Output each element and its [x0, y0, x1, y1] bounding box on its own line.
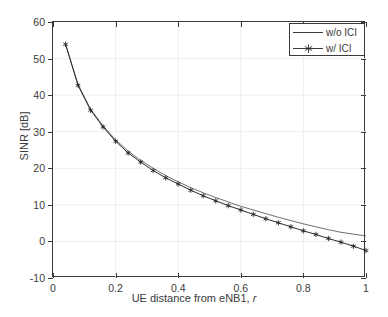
series-w-ici — [63, 42, 368, 254]
series-markers — [63, 42, 368, 254]
y-tick-label: 20 — [5, 163, 45, 173]
x-tick-mark — [116, 273, 117, 278]
x-tick-mark — [178, 273, 179, 278]
gridlines — [53, 22, 366, 278]
y-tick-mark-right — [361, 168, 366, 169]
y-tick-mark-right — [361, 205, 366, 206]
x-axis-title: UE distance from eNB1, r — [0, 292, 388, 304]
series-line — [66, 44, 366, 250]
x-tick-mark-top — [241, 22, 242, 27]
y-tick-label: 30 — [5, 127, 45, 137]
y-tick-mark — [48, 95, 53, 96]
y-tick-mark-right — [361, 95, 366, 96]
x-tick-mark — [303, 273, 304, 278]
figure-canvas: SINR [dB] UE distance from eNB1, r -1001… — [0, 0, 388, 317]
y-tick-mark — [48, 278, 53, 279]
y-tick-mark — [48, 205, 53, 206]
legend-label-wo-ici: w/o ICI — [326, 26, 363, 39]
x-axis-title-variable: r — [253, 292, 257, 304]
x-tick-mark-top — [53, 22, 54, 27]
y-tick-mark-right — [361, 278, 366, 279]
legend-item-1[interactable]: w/ ICI — [290, 41, 364, 56]
x-tick-label: 0.4 — [156, 283, 200, 293]
x-tick-mark — [53, 273, 54, 278]
series-w-o-ici — [66, 44, 366, 236]
x-tick-mark — [366, 273, 367, 278]
y-tick-label: -10 — [5, 273, 45, 283]
y-tick-label: 0 — [5, 236, 45, 246]
y-tick-mark-right — [361, 132, 366, 133]
y-tick-label: 60 — [5, 17, 45, 27]
legend-item-0[interactable]: w/o ICI — [290, 25, 364, 40]
y-tick-mark — [48, 132, 53, 133]
x-tick-label: 1 — [344, 283, 388, 293]
series-line — [66, 44, 366, 236]
plot-area: -10010203040506000.20.40.60.81 w/o ICI w… — [52, 21, 365, 277]
x-tick-label: 0.2 — [94, 283, 138, 293]
x-tick-mark — [241, 273, 242, 278]
data-series-layer — [63, 42, 368, 254]
y-tick-mark — [48, 59, 53, 60]
x-tick-label: 0.6 — [219, 283, 263, 293]
plot-svg — [53, 22, 366, 278]
y-tick-mark — [48, 168, 53, 169]
legend[interactable]: w/o ICI w/ ICI — [289, 23, 365, 56]
y-tick-label: 10 — [5, 200, 45, 210]
y-tick-label: 40 — [5, 90, 45, 100]
legend-line-sample-wo-ici — [293, 32, 323, 33]
x-tick-label: 0 — [31, 283, 75, 293]
asterisk-marker-icon — [304, 43, 313, 54]
y-tick-mark-right — [361, 59, 366, 60]
legend-label-w-ici: w/ ICI — [326, 42, 363, 55]
y-tick-mark-right — [361, 241, 366, 242]
x-axis-title-text: UE distance from eNB1, — [132, 292, 250, 304]
y-tick-label: 50 — [5, 54, 45, 64]
x-tick-label: 0.8 — [281, 283, 325, 293]
x-tick-mark-top — [366, 22, 367, 27]
y-tick-mark — [48, 241, 53, 242]
x-tick-mark-top — [178, 22, 179, 27]
x-tick-mark-top — [116, 22, 117, 27]
